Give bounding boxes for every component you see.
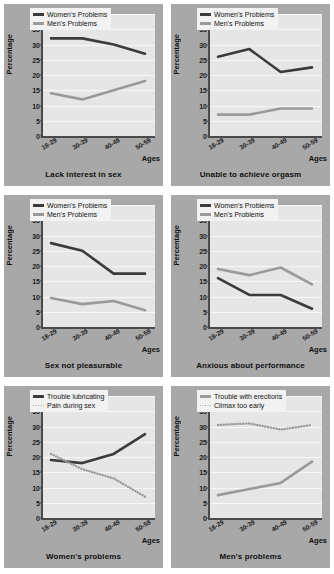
y-tick-label: 10 [199, 484, 207, 491]
y-tick-label: 0 [36, 515, 40, 522]
y-tick-label: 25 [32, 438, 40, 445]
x-tick-label: 40-49 [270, 327, 288, 342]
chart-grid: Percentage0510152025303540Women's Proble… [0, 0, 334, 574]
x-tick-label: 30-39 [238, 518, 256, 533]
x-tick-label: 40-49 [270, 518, 288, 533]
series-layer [210, 396, 322, 518]
y-tick-label: 25 [32, 247, 40, 254]
legend-swatch-icon [200, 13, 211, 16]
y-tick-label: 30 [199, 41, 207, 48]
y-tick-label: 5 [203, 308, 207, 315]
y-tick-label: 10 [199, 102, 207, 109]
x-tick-label: 18-29 [207, 518, 225, 533]
chart-panel-body: Percentage0510152025303540Women's Proble… [171, 195, 330, 377]
legend-label: Pain during sex [47, 402, 95, 410]
plot-area: 0510152025303540 [208, 205, 322, 329]
x-tick-label: 30-39 [71, 136, 89, 151]
y-tick-label: 25 [199, 438, 207, 445]
legend-swatch-icon [33, 395, 44, 398]
plot-area: 0510152025303540 [208, 14, 322, 138]
legend-label: Climax too early [214, 402, 264, 410]
chart-title: Sex not pleasurable [4, 361, 163, 370]
legend: Women's ProblemsMen's Problems [30, 8, 111, 30]
x-tick-label: 40-49 [103, 518, 121, 533]
chart-panel: Percentage0510152025303540Women's Proble… [167, 0, 334, 191]
legend-item: Women's Problems [33, 10, 107, 19]
legend-label: Women's Problems [47, 202, 107, 210]
y-tick-label: 20 [199, 263, 207, 270]
series-line [218, 109, 312, 115]
legend: Trouble lubricatingPain during sex [30, 390, 108, 412]
legend-swatch-icon [200, 204, 211, 207]
x-axis-title: Ages [142, 345, 160, 354]
legend-label: Men's Problems [47, 211, 97, 219]
y-tick-label: 20 [32, 454, 40, 461]
x-axis-labels: 18-2930-3940-4950-59 [41, 520, 153, 546]
x-axis-labels: 18-2930-3940-4950-59 [208, 520, 320, 546]
chart-panel-body: Percentage0510152025303540Women's Proble… [4, 195, 163, 377]
chart-panel-body: Percentage0510152025303540Trouble with e… [171, 386, 330, 568]
y-tick-label: 15 [32, 278, 40, 285]
chart-title: Women's problems [4, 552, 163, 561]
y-tick-label: 0 [36, 324, 40, 331]
x-tick-label: 50-59 [134, 518, 152, 533]
y-tick-label: 15 [32, 469, 40, 476]
legend: Women's ProblemsMen's Problems [197, 8, 278, 30]
x-tick-label: 18-29 [207, 136, 225, 151]
y-tick-label: 5 [203, 117, 207, 124]
y-tick-label: 30 [199, 423, 207, 430]
x-tick-label: 40-49 [270, 136, 288, 151]
series-line [51, 38, 145, 53]
chart-panel: Percentage0510152025303540Women's Proble… [0, 0, 167, 191]
legend-label: Men's Problems [214, 20, 264, 28]
y-tick-label: 10 [199, 293, 207, 300]
chart-panel: Percentage0510152025303540Trouble with e… [167, 382, 334, 574]
y-tick-label: 0 [203, 133, 207, 140]
y-tick-label: 10 [32, 102, 40, 109]
series-layer [43, 205, 155, 327]
legend-label: Women's Problems [47, 11, 107, 19]
plot-wrapper: 0510152025303540Trouble lubricatingPain … [4, 386, 163, 536]
series-layer [43, 396, 155, 518]
y-tick-label: 20 [32, 263, 40, 270]
x-axis-title: Ages [309, 154, 327, 163]
x-axis-labels: 18-2930-3940-4950-59 [208, 138, 320, 164]
y-tick-label: 5 [36, 499, 40, 506]
y-tick-label: 25 [199, 56, 207, 63]
plot-area: 0510152025303540 [41, 14, 155, 138]
legend-label: Women's Problems [214, 11, 274, 19]
chart-panel-body: Percentage0510152025303540Trouble lubric… [4, 386, 163, 568]
series-line [51, 434, 145, 463]
legend-swatch-icon [200, 213, 211, 216]
x-tick-label: 18-29 [40, 518, 58, 533]
x-tick-label: 50-59 [301, 136, 319, 151]
chart-title: Unable to achieve orgasm [171, 170, 330, 179]
series-line [218, 268, 312, 285]
legend-swatch-icon [33, 204, 44, 207]
legend-swatch-icon [33, 404, 44, 407]
x-tick-label: 50-59 [301, 327, 319, 342]
chart-title: Lack interest in sex [4, 170, 163, 179]
x-tick-label: 18-29 [40, 136, 58, 151]
y-tick-label: 30 [32, 232, 40, 239]
series-line [218, 49, 312, 72]
series-layer [43, 14, 155, 136]
legend-swatch-icon [200, 404, 211, 407]
y-tick-label: 30 [32, 41, 40, 48]
y-tick-label: 15 [32, 87, 40, 94]
y-tick-label: 20 [199, 72, 207, 79]
chart-title: Men's problems [171, 552, 330, 561]
x-axis-labels: 18-2930-3940-4950-59 [41, 138, 153, 164]
y-tick-label: 25 [199, 247, 207, 254]
series-line [51, 81, 145, 99]
y-tick-label: 25 [32, 56, 40, 63]
y-tick-label: 10 [32, 293, 40, 300]
legend-item: Women's Problems [200, 201, 274, 210]
legend-item: Women's Problems [33, 201, 107, 210]
legend-item: Pain during sex [33, 401, 104, 410]
series-line [218, 278, 312, 309]
x-tick-label: 18-29 [40, 327, 58, 342]
chart-panel: Percentage0510152025303540Trouble lubric… [0, 382, 167, 574]
y-tick-label: 5 [36, 308, 40, 315]
x-axis-labels: 18-2930-3940-4950-59 [41, 329, 153, 355]
